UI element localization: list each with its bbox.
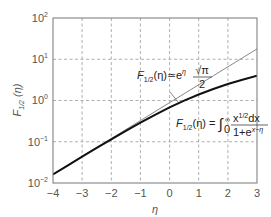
approx-denominator: 2 bbox=[199, 78, 205, 90]
x-tick-label: −3 bbox=[76, 187, 89, 199]
y-tick-label: 101 bbox=[32, 52, 48, 65]
exact-formula: F1/2(η) = ∫ bbox=[176, 115, 224, 133]
gridlines bbox=[53, 18, 257, 183]
integral-lower: 0 bbox=[224, 123, 230, 135]
integral-upper: ∞ bbox=[225, 116, 230, 123]
exact-numerator: x1/2dx bbox=[233, 112, 260, 124]
y-tick-label: 102 bbox=[32, 11, 48, 24]
x-tick-label: −1 bbox=[134, 187, 147, 199]
approx-numerator: √π bbox=[195, 64, 209, 76]
x-tick-label: −2 bbox=[105, 187, 118, 199]
x-tick-label: 1 bbox=[196, 187, 202, 199]
annotation-exact: F1/2(η) = ∫ ∞ 0 x1/2dx 1+ex−η bbox=[176, 112, 268, 138]
x-axis-label: η bbox=[152, 203, 158, 215]
approx-formula: F1/2(η)≃eη bbox=[137, 68, 186, 83]
curves bbox=[53, 49, 257, 175]
y-tick-label: 100 bbox=[32, 93, 48, 106]
x-tick-label: −4 bbox=[47, 187, 60, 199]
y-tick-label: 10−2 bbox=[28, 176, 48, 189]
chart: 102 101 100 10−1 10−2 −4 −3 −2 −1 0 1 2 … bbox=[0, 0, 271, 217]
x-axis-ticks: −4 −3 −2 −1 0 1 2 3 bbox=[47, 187, 260, 199]
x-tick-label: 3 bbox=[254, 187, 260, 199]
y-tick-label: 10−1 bbox=[28, 135, 48, 148]
y-axis-label: F1/2 (η) bbox=[11, 83, 25, 116]
exact-denominator: 1+ex−η bbox=[233, 126, 263, 138]
x-tick-label: 2 bbox=[225, 187, 231, 199]
y-axis-ticks: 102 101 100 10−1 10−2 bbox=[28, 11, 48, 189]
annotation-approx: F1/2(η)≃eη √π 2 bbox=[137, 64, 212, 102]
x-tick-label: 0 bbox=[167, 187, 173, 199]
